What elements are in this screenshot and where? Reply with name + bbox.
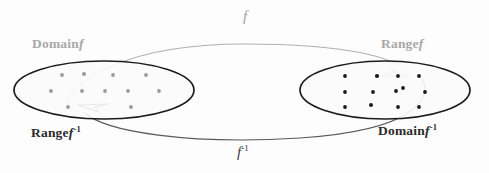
label-range-f-inverse-word: Range bbox=[31, 125, 69, 140]
label-curve-f-inverse-exponent: -1 bbox=[241, 143, 249, 153]
right-set-ellipse bbox=[300, 61, 470, 119]
left-dot bbox=[49, 89, 53, 93]
label-domain-f-word: Domain bbox=[32, 36, 79, 51]
label-domain-f-symbol: f bbox=[79, 36, 84, 51]
inverse-function-diagram: Domainf Rangef Rangef-1 Domainf-1 f f-1 bbox=[0, 0, 489, 173]
right-dot bbox=[343, 90, 347, 94]
right-dot bbox=[401, 86, 405, 90]
left-dot bbox=[111, 73, 115, 77]
label-domain-f: Domainf bbox=[32, 37, 84, 51]
label-range-f: Rangef bbox=[381, 37, 423, 51]
label-range-f-symbol: f bbox=[419, 36, 424, 51]
right-dot bbox=[423, 90, 427, 94]
label-domain-f-inverse: Domainf-1 bbox=[378, 124, 437, 138]
left-dot bbox=[144, 73, 148, 77]
right-dot bbox=[396, 74, 400, 78]
right-dot bbox=[343, 105, 347, 109]
label-curve-f: f bbox=[243, 9, 247, 24]
left-set-ellipse-group bbox=[14, 61, 194, 119]
label-domain-f-inverse-exponent: -1 bbox=[430, 122, 437, 132]
right-dot bbox=[369, 103, 373, 107]
right-dot bbox=[417, 74, 421, 78]
right-dot bbox=[417, 105, 421, 109]
left-dot bbox=[82, 72, 86, 76]
right-dot bbox=[375, 74, 379, 78]
left-dot bbox=[103, 89, 107, 93]
left-dot bbox=[80, 89, 84, 93]
left-dot bbox=[66, 105, 70, 109]
left-dot bbox=[60, 73, 64, 77]
right-dot bbox=[394, 89, 398, 93]
right-dot bbox=[343, 74, 347, 78]
right-dot bbox=[371, 90, 375, 94]
label-curve-f-inverse: f-1 bbox=[237, 145, 249, 160]
label-range-f-inverse-exponent: -1 bbox=[73, 124, 80, 134]
left-dot bbox=[129, 105, 133, 109]
right-dot bbox=[396, 105, 400, 109]
label-range-f-word: Range bbox=[381, 36, 419, 51]
left-dot bbox=[157, 89, 161, 93]
label-curve-f-symbol: f bbox=[243, 8, 247, 24]
right-set-ellipse-group bbox=[300, 61, 470, 119]
left-dot bbox=[126, 89, 130, 93]
label-domain-f-inverse-word: Domain bbox=[378, 123, 425, 138]
label-range-f-inverse: Rangef-1 bbox=[31, 126, 81, 140]
